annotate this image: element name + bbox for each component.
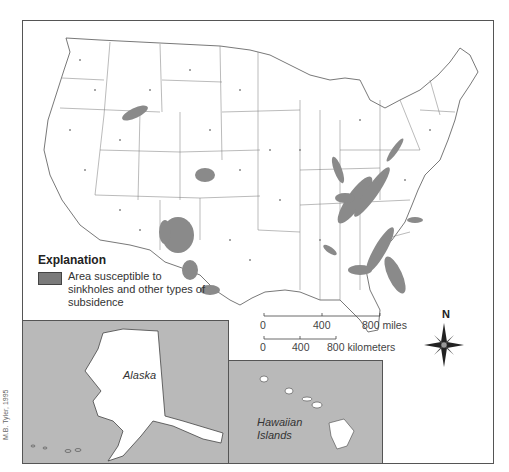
- alaska-shape: [23, 321, 230, 465]
- map-credit: M.B. Tyler, 1995: [2, 390, 9, 440]
- north-label: N: [442, 308, 450, 320]
- alaska-label: Alaska: [123, 369, 156, 382]
- alaska-inset: Alaska: [22, 320, 229, 464]
- hawaii-label-line2: Islands: [257, 429, 292, 442]
- scale-miles-800: 800 miles: [362, 319, 407, 331]
- hawaii-shape: [229, 361, 384, 465]
- legend: Explanation Area susceptible to sinkhole…: [38, 253, 208, 309]
- scale-km-0: 0: [260, 341, 266, 353]
- compass-rose-icon: [424, 323, 464, 367]
- legend-item: Area susceptible to sinkholes and other …: [38, 270, 208, 309]
- hawaii-label-line1: Hawaiian: [257, 416, 302, 429]
- scale-km-800: 800 kilometers: [327, 341, 395, 353]
- legend-swatch: [38, 272, 62, 285]
- scale-miles-400: 400: [313, 319, 331, 331]
- scale-miles-0: 0: [260, 319, 266, 331]
- scale-km-400: 400: [292, 341, 310, 353]
- legend-label: Area susceptible to sinkholes and other …: [68, 270, 208, 309]
- hawaii-inset: Hawaiian Islands: [228, 360, 383, 464]
- legend-title: Explanation: [38, 253, 208, 267]
